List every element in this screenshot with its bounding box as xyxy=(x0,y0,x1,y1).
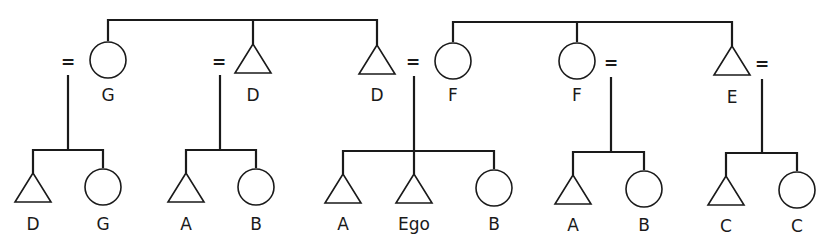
sibling-group-left: G D D xyxy=(90,20,395,105)
person-label: C xyxy=(791,216,803,236)
marriage-equals-icon: = xyxy=(212,52,226,72)
person-label: B xyxy=(488,214,500,234)
person-label: A xyxy=(567,215,579,235)
children-group-4: A B xyxy=(555,152,662,235)
male-triangle-icon xyxy=(359,45,395,74)
female-circle-icon xyxy=(435,43,471,79)
person-label: E xyxy=(727,87,738,107)
marriage-equals-icon: = xyxy=(61,52,75,72)
sibling-group-right: F F E xyxy=(435,22,750,107)
ego-triangle-icon xyxy=(396,174,432,203)
children-bar xyxy=(186,150,256,173)
children-bar xyxy=(343,151,494,174)
descent-lines xyxy=(68,75,762,153)
male-triangle-icon xyxy=(235,44,271,73)
female-circle-icon xyxy=(90,42,126,78)
children-group-3: A Ego B xyxy=(325,151,512,234)
children-bar xyxy=(573,152,644,175)
female-circle-icon xyxy=(238,169,274,205)
marriage-equals-icon: = xyxy=(406,52,420,72)
male-triangle-icon xyxy=(714,46,750,75)
person-label: C xyxy=(720,216,732,236)
marriage-equals-icon: = xyxy=(604,53,618,73)
person-label: B xyxy=(638,215,650,235)
person-label: A xyxy=(337,214,349,234)
male-triangle-icon xyxy=(325,174,361,203)
person-label: A xyxy=(180,214,192,234)
person-label: D xyxy=(370,85,383,105)
person-label: D xyxy=(26,214,39,234)
children-bar xyxy=(726,153,797,176)
female-circle-icon xyxy=(476,170,512,206)
children-bar xyxy=(33,150,103,173)
person-label: F xyxy=(572,85,582,105)
male-triangle-icon xyxy=(708,176,744,205)
female-circle-icon xyxy=(626,171,662,207)
marriage-symbols: = = = = = xyxy=(61,52,769,74)
sibling-bar-left xyxy=(108,20,377,45)
female-circle-icon xyxy=(779,172,815,208)
person-label: D xyxy=(246,85,259,105)
female-circle-icon xyxy=(559,43,595,79)
male-triangle-icon xyxy=(168,173,204,202)
children-group-5: C C xyxy=(708,153,815,236)
person-label: B xyxy=(250,214,262,234)
sibling-bar-right xyxy=(453,22,732,46)
kinship-diagram: G D D F F E = = = = = D G xyxy=(0,0,829,246)
female-circle-icon xyxy=(85,169,121,205)
person-label: G xyxy=(96,214,109,234)
ego-label: Ego xyxy=(398,214,430,234)
person-label: F xyxy=(448,85,458,105)
male-triangle-icon xyxy=(555,175,591,204)
person-label: G xyxy=(101,85,114,105)
children-group-2: A B xyxy=(168,150,274,234)
children-group-1: D G xyxy=(15,150,121,234)
male-triangle-icon xyxy=(15,173,51,202)
marriage-equals-icon: = xyxy=(755,54,769,74)
